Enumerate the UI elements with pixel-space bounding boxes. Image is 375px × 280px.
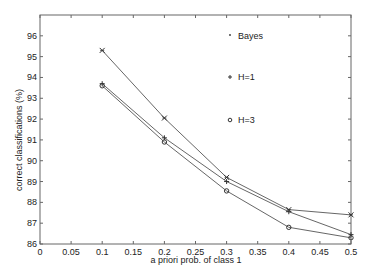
x-tick-label: 0.05 bbox=[62, 247, 80, 257]
y-tick-label: 95 bbox=[27, 52, 37, 62]
legend-label: Bayes bbox=[238, 31, 264, 41]
y-tick-label: 87 bbox=[27, 218, 37, 228]
series-h-1 bbox=[100, 81, 354, 237]
y-tick-label: 89 bbox=[27, 177, 37, 187]
x-tick-label: 0.35 bbox=[249, 247, 267, 257]
y-tick-label: 90 bbox=[27, 156, 37, 166]
legend-label: H=1 bbox=[238, 72, 255, 82]
x-tick-label: 0.5 bbox=[345, 247, 358, 257]
y-tick-label: 91 bbox=[27, 135, 37, 145]
data-series bbox=[100, 48, 354, 240]
x-tick-label: 0.15 bbox=[125, 247, 143, 257]
x-tick-label: 0.1 bbox=[96, 247, 109, 257]
legend-label: H=3 bbox=[238, 115, 255, 125]
series-h-3 bbox=[100, 84, 353, 240]
y-tick-label: 96 bbox=[27, 31, 37, 41]
y-tick-label: 88 bbox=[27, 197, 37, 207]
y-axis-label: correct classifications (%) bbox=[14, 89, 24, 191]
legend-item: Bayes bbox=[229, 31, 263, 41]
plot-border bbox=[40, 15, 351, 244]
axis-ticks: 00.050.10.150.20.250.30.350.40.450.58687… bbox=[27, 15, 357, 257]
x-tick-label: 0.4 bbox=[283, 247, 296, 257]
asterisk-marker-icon bbox=[229, 34, 231, 36]
series-bayes bbox=[100, 48, 354, 217]
line-chart: 00.050.10.150.20.250.30.350.40.450.58687… bbox=[0, 0, 375, 280]
y-tick-label: 86 bbox=[27, 239, 37, 249]
plot-frame bbox=[40, 15, 351, 244]
x-tick-label: 0 bbox=[37, 247, 42, 257]
y-tick-label: 93 bbox=[27, 93, 37, 103]
y-tick-label: 92 bbox=[27, 114, 37, 124]
x-tick-label: 0.45 bbox=[311, 247, 329, 257]
x-axis-label: a priori prob. of class 1 bbox=[150, 255, 241, 265]
legend-item: H=3 bbox=[228, 115, 255, 125]
y-tick-label: 94 bbox=[27, 72, 37, 82]
legend-item: H=1 bbox=[228, 72, 255, 82]
legend: BayesH=1H=3 bbox=[228, 31, 264, 125]
